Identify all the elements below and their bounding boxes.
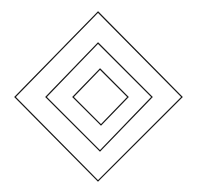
- middle-diamond: [46, 43, 152, 151]
- outer-diamond: [15, 12, 182, 181]
- nested-diamonds-diagram: [0, 0, 201, 188]
- inner-diamond: [73, 69, 128, 125]
